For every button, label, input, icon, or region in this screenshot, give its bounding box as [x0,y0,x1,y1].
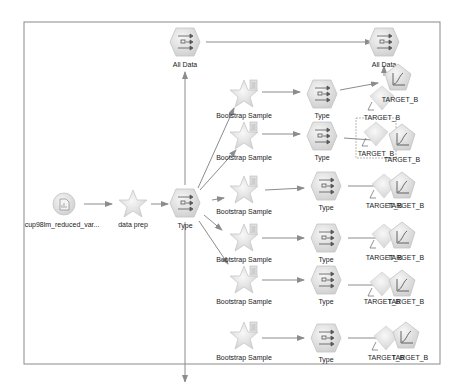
bootstrap-sample-icon [230,224,258,251]
main-type-label: Type [177,222,192,230]
bootstrap-sample-icon [230,176,258,203]
svg-text:TARGET_B: TARGET_B [388,202,425,210]
all-data-left-label: All Data [173,61,198,68]
svg-text:Bootstrap Sample: Bootstrap Sample [216,112,272,120]
model-nugget[interactable]: TARGET_B [388,222,425,262]
model-nugget[interactable]: TARGET_B [388,172,425,210]
branch-row: Bootstrap Sample Type TARGET_B TARGET_B [216,266,424,306]
svg-text:TARGET_B: TARGET_B [388,298,425,306]
type-node-icon [307,122,337,150]
svg-text:TARGET_B: TARGET_B [384,156,421,164]
stream-frame [24,22,440,364]
svg-text:TARGET_B: TARGET_B [382,96,419,104]
svg-text:Bootstrap Sample: Bootstrap Sample [216,354,272,362]
stream-canvas[interactable]: cup98lm_reduced_var... data prep Type Al… [0,0,460,382]
branch-row: Bootstrap Sample Type TARGET_B TARGET_B [216,118,420,164]
bootstrap-sample-node[interactable]: Bootstrap Sample [216,322,272,362]
svg-text:Type: Type [318,204,333,212]
svg-text:Bootstrap Sample: Bootstrap Sample [216,154,272,162]
type-node-icon [311,172,341,200]
bootstrap-sample-icon [230,266,258,293]
all-data-left-node[interactable]: All Data [170,28,200,68]
svg-text:Bootstrap Sample: Bootstrap Sample [216,208,272,216]
branch-row: Bootstrap Sample Type TARGET_B TARGET_B [216,222,424,264]
model-nugget-icon [389,124,415,150]
star-supernode-icon [119,190,147,217]
all-data-right-node[interactable]: All Data [369,28,399,68]
model-builder-icon [362,122,388,146]
bootstrap-sample-node[interactable]: Bootstrap Sample [216,224,272,264]
type-node-icon [170,28,200,56]
svg-text:Type: Type [318,256,333,264]
bootstrap-sample-node[interactable]: Bootstrap Sample [216,176,272,216]
type-node-icon [311,324,341,352]
type-node[interactable]: Type [307,122,337,162]
bootstrap-sample-icon [230,322,258,349]
model-nugget-icon [389,172,415,198]
svg-text:TARGET_B: TARGET_B [392,354,429,362]
type-node-icon [170,189,200,217]
source-node-label: cup98lm_reduced_var... [25,221,100,229]
model-nugget[interactable]: TARGET_B [388,270,425,306]
source-node[interactable]: cup98lm_reduced_var... [25,193,100,229]
model-nugget-icon [389,270,415,296]
bootstrap-sample-icon [230,122,258,149]
model-nugget-icon [393,322,419,348]
main-type-node[interactable]: Type [170,189,200,230]
svg-text:TARGET_B: TARGET_B [388,254,425,262]
type-node-icon [311,266,341,294]
type-node[interactable]: Type [311,172,341,212]
data-prep-label: data prep [118,221,148,229]
type-node[interactable]: Type [311,324,341,364]
data-prep-node[interactable]: data prep [118,190,148,229]
all-data-right-label: All Data [372,61,397,68]
model-node[interactable]: TARGET_B TARGET_B [364,86,419,122]
model-nugget-icon [389,222,415,248]
bootstrap-sample-node[interactable]: Bootstrap Sample [216,80,272,120]
type-node[interactable]: Type [307,80,337,120]
branch-row: Bootstrap Sample Type TARGET_B TARGET_B [216,322,428,364]
model-node[interactable]: TARGET_B [358,122,395,158]
model-nugget[interactable]: TARGET_B [392,322,429,362]
svg-text:Type: Type [318,298,333,306]
model-nugget[interactable]: TARGET_B [384,124,421,164]
svg-text:Type: Type [314,154,329,162]
branch-row: Bootstrap Sample Type TARGET_B TARGET_B [216,172,424,216]
svg-text:Type: Type [318,356,333,364]
type-node-icon [369,28,399,56]
bootstrap-sample-node[interactable]: Bootstrap Sample [216,266,272,306]
type-node-icon [311,224,341,252]
svg-text:Bootstrap Sample: Bootstrap Sample [216,256,272,264]
model-builder-icon [372,326,398,350]
bootstrap-sample-icon [230,80,258,107]
type-node[interactable]: Type [311,266,341,306]
svg-text:Type: Type [314,112,329,120]
type-node[interactable]: Type [311,224,341,264]
branch-row: Bootstrap Sample Type TARGET_B TARGET_B [216,64,418,122]
type-node-icon [307,80,337,108]
svg-text:Bootstrap Sample: Bootstrap Sample [216,298,272,306]
